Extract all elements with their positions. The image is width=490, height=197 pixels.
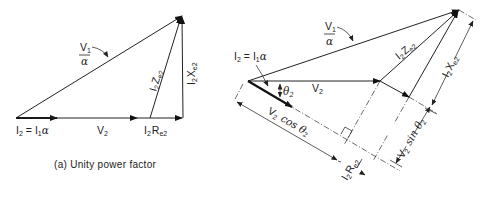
v2-label: V2 (97, 124, 108, 137)
i2xe2-tick (425, 108, 437, 114)
v1-phasor-b (248, 10, 459, 81)
svg-text:V1: V1 (325, 20, 336, 33)
v2-label-b: V2 (312, 82, 323, 95)
ir-ext-dashed (409, 97, 436, 113)
i2-label-b: I2= I1α (234, 50, 267, 63)
i2xe2-label: I2Xe2 (185, 62, 198, 85)
svg-text:α: α (81, 55, 88, 67)
v1-label: V1 α (79, 41, 108, 67)
diagram-unity-pf: V1 α I2= I1α V2 I2Re2 I2Ze2 I2Xe2 (a) Un… (16, 16, 198, 170)
svg-text:V1: V1 (80, 41, 91, 54)
svg-text:α: α (326, 35, 333, 47)
i2-leader (256, 65, 268, 86)
theta-label: θ2 (283, 85, 294, 99)
caption-unity-pf: (a) Unity power factor (54, 159, 157, 170)
phasor-diagrams: V1 α I2= I1α V2 I2Re2 I2Ze2 I2Xe2 (a) Un… (0, 0, 490, 197)
i2re2-phasor-b (380, 81, 409, 97)
i2ze2-label-b: I2Ze2 (393, 38, 418, 62)
i2re2-label: I2Re2 (144, 124, 167, 137)
i2re2-dim-tick-b (360, 172, 365, 175)
i2xe2-phasor (182, 17, 183, 118)
i2re2-label-b: I2Re2 (338, 156, 361, 183)
diagram-lagging-pf: θ2 V1 α I2= I1α V2 I2Ze2 I2Xe2 V2cos θ2 … (234, 10, 476, 183)
origin-ext-dashed (234, 84, 243, 101)
right-angle-mark (341, 127, 352, 138)
i2ze2-label: I2Ze2 (146, 68, 165, 93)
i2re2-dim-tick-a (338, 161, 341, 162)
apex-ext-dashed (459, 10, 476, 20)
v1-phasor (16, 16, 182, 118)
i2ze2-phasor (150, 17, 181, 118)
v1-label-b: V1 α (324, 20, 353, 47)
i2-label: I2= I1α (16, 124, 49, 137)
